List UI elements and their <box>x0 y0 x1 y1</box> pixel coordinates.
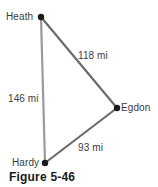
figure-caption: Figure 5-46 <box>9 170 75 184</box>
vertex-label-heath: Heath <box>6 11 33 22</box>
vertex-label-hardy: Hardy <box>12 157 39 168</box>
edge-heath-hardy <box>41 17 45 163</box>
edge-hardy-egdon <box>45 108 117 163</box>
edge-heath-egdon <box>41 17 117 108</box>
vertex-dot-hardy <box>42 160 48 166</box>
vertex-label-egdon: Egdon <box>121 102 150 113</box>
vertex-dot-heath <box>38 14 44 20</box>
vertex-dot-egdon <box>114 105 120 111</box>
edge-label-hardy-egdon: 93 mi <box>78 142 103 153</box>
edge-label-heath-hardy: 146 mi <box>8 93 39 104</box>
figure-container: Heath Egdon Hardy 118 mi 146 mi 93 mi Fi… <box>0 0 158 187</box>
edge-label-heath-egdon: 118 mi <box>78 50 108 61</box>
